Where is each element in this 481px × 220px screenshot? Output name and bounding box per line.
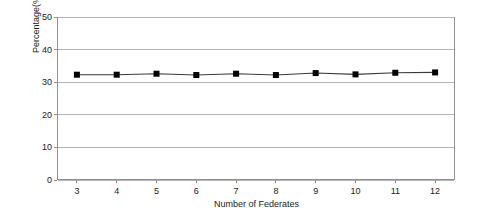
data-point-marker bbox=[74, 72, 80, 78]
data-point-marker bbox=[273, 72, 279, 78]
data-point-marker bbox=[353, 71, 359, 77]
data-point-marker bbox=[154, 71, 160, 77]
data-point-marker bbox=[313, 70, 319, 76]
data-point-marker bbox=[432, 69, 438, 75]
data-point-marker bbox=[392, 70, 398, 76]
chart-figure: Percentage(%) 0 10 20 30 40 50 3 4 5 6 7… bbox=[0, 0, 481, 220]
data-point-marker bbox=[193, 72, 199, 78]
data-point-marker bbox=[114, 72, 120, 78]
chart-canvas bbox=[0, 0, 481, 220]
gridlines bbox=[58, 17, 454, 180]
y-tick-marks bbox=[54, 17, 57, 180]
data-point-marker bbox=[233, 71, 239, 77]
data-line bbox=[77, 72, 435, 75]
